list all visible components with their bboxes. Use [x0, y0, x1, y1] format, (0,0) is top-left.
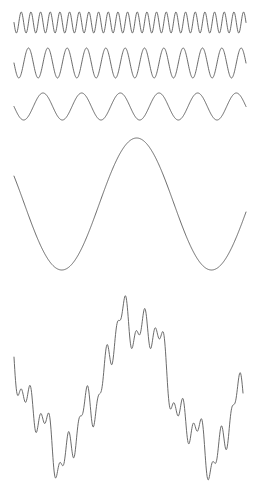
waveform-canvas: [0, 0, 258, 481]
waveform-figure: [0, 0, 258, 481]
